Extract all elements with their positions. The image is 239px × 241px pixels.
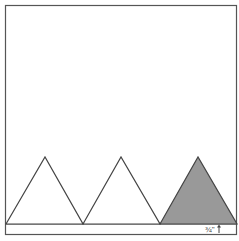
- measurement-label: ¾": [205, 225, 215, 234]
- triangle-diagram: ¾": [0, 0, 239, 241]
